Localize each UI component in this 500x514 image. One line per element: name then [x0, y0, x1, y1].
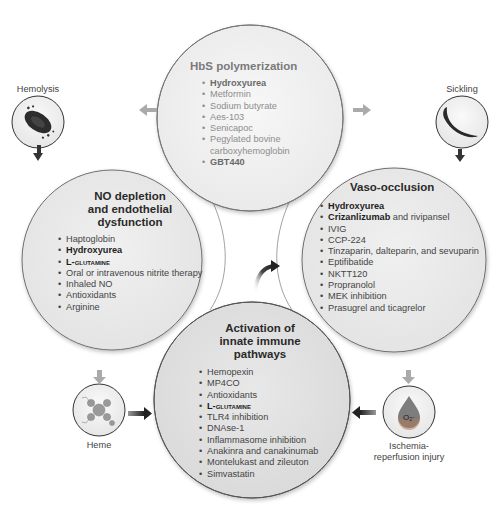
therapy-list: Hydroxyurea Crizanlizumab and rivipansel… [320, 201, 490, 314]
panel-title: Activation of innate immune pathways [205, 322, 315, 361]
arrow-to-sickling [353, 104, 371, 116]
list-item: Haptoglobin [58, 234, 212, 245]
therapy-list: Hemopexin MP4CO Antioxidants L-glutamine… [199, 367, 355, 480]
sickling-icon-group [436, 96, 488, 148]
no-depletion-panel: NO depletion and endothelial dysfunction… [52, 190, 212, 313]
list-item: Aes-103 [202, 112, 320, 123]
hbs-polymerization-panel: HbS polymerization Hydroxyurea Metformin… [190, 60, 320, 168]
list-item: Propranolol [320, 280, 490, 291]
list-item: Hydroxyurea [58, 245, 212, 256]
list-item: Antioxidants [58, 290, 212, 301]
list-item: Montelukast and zileuton [199, 457, 355, 468]
list-item: MEK inhibition [320, 291, 490, 302]
list-item: L-glutamine [58, 257, 212, 268]
arrow-to-heme [93, 370, 106, 384]
list-item: Sodium butyrate [202, 101, 320, 112]
arrow-heme-right [128, 407, 152, 420]
sickling-label: Sickling [430, 84, 494, 95]
list-item: Metformin [202, 89, 320, 100]
hemolysis-icon-group [12, 96, 64, 148]
ischemia-label: Ischemia- reperfusion injury [364, 441, 454, 463]
connector-line [277, 200, 292, 310]
list-item: L-glutamine [199, 401, 355, 412]
connector-line [210, 200, 225, 310]
arrow-sickling-down [455, 149, 465, 162]
arrow-to-ischemia [402, 370, 415, 384]
list-item: Arginine [58, 302, 212, 313]
list-item: Senicapoc [202, 123, 320, 134]
list-item: TLR4 inhibition [199, 412, 355, 423]
list-item: IVIG [320, 224, 490, 235]
arrow-ischemia-left [352, 406, 376, 419]
list-item: CCP-224 [320, 235, 490, 246]
list-item: Tinzaparin, dalteparin, and sevuparin [320, 246, 490, 257]
list-item: Simvastatin [199, 469, 355, 480]
oxygen-radical-glyph: O₂· [399, 412, 419, 423]
list-item: Anakinra and canakinumab [199, 446, 355, 457]
list-item: Hydroxyurea [320, 201, 490, 212]
hemolysis-label: Hemolysis [6, 84, 70, 95]
list-item: Crizanlizumab and rivipansel [320, 212, 490, 223]
list-item: Pegylated bovinecarboxyhemoglobin [202, 134, 320, 157]
heme-icon-group [73, 384, 125, 436]
list-item: DNAse-1 [199, 423, 355, 434]
panel-title: Vaso-occlusion [320, 181, 490, 194]
list-item: Hydroxyurea [202, 78, 320, 89]
list-item: GBT440 [202, 157, 320, 168]
heme-label: Heme [67, 440, 131, 451]
arrow-to-hemolysis [139, 104, 157, 116]
list-item: Antioxidants [199, 390, 355, 401]
therapy-list: Haptoglobin Hydroxyurea L-glutamine Oral… [58, 234, 212, 313]
list-item: Eptifibatide [320, 257, 490, 268]
cycle-arrow-icon [255, 260, 280, 293]
list-item: Inhaled NO [58, 279, 212, 290]
panel-title: NO depletion and endothelial dysfunction [48, 190, 212, 229]
list-item: Oral or intravenous nitrite therapy [58, 268, 212, 279]
list-item: MP4CO [199, 378, 355, 389]
list-item: Inflammasome inhibition [199, 435, 355, 446]
list-item: Hemopexin [199, 367, 355, 378]
innate-immune-panel: Activation of innate immune pathways Hem… [205, 322, 355, 480]
vaso-occlusion-panel: Vaso-occlusion Hydroxyurea Crizanlizumab… [320, 181, 490, 314]
list-item: Prasugrel and ticagrelor [320, 303, 490, 314]
list-item: NKTT120 [320, 269, 490, 280]
panel-title: HbS polymerization [190, 60, 320, 73]
therapy-list: Hydroxyurea Metformin Sodium butyrate Ae… [202, 78, 320, 168]
